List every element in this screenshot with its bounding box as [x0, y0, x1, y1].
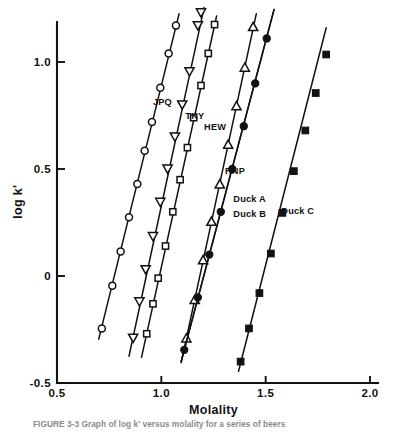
data-point — [184, 145, 190, 151]
chart-canvas: 0.51.01.52.01.00.50-0.5 JPQTKYHEWRNPDuck… — [0, 0, 400, 432]
figure-container: 0.51.01.52.01.00.50-0.5 JPQTKYHEWRNPDuck… — [0, 0, 400, 432]
data-point — [98, 325, 105, 332]
data-point — [224, 140, 233, 148]
data-point — [144, 331, 150, 337]
data-point — [249, 22, 258, 30]
data-point — [177, 177, 183, 183]
data-point — [156, 198, 165, 206]
data-point — [291, 168, 298, 175]
data-point — [246, 325, 253, 332]
data-point — [198, 82, 204, 88]
data-point — [205, 50, 211, 56]
y-tick-label-2: 0 — [44, 270, 51, 282]
data-point — [240, 63, 249, 71]
data-point — [237, 358, 244, 365]
data-point — [215, 180, 224, 188]
data-point — [125, 214, 132, 221]
y-tick-label-0: 1.0 — [34, 56, 51, 68]
x-axis-title: Molality — [189, 403, 238, 417]
series-rnp — [181, 14, 258, 363]
data-point — [148, 118, 155, 125]
series-label-rnp: RNP — [225, 166, 245, 176]
x-tick-label-2: 1.5 — [257, 387, 274, 399]
series-label-jpq: JPQ — [153, 97, 172, 107]
series-label-duck-a: Duck A — [233, 194, 266, 204]
data-point — [211, 21, 217, 27]
data-point — [302, 127, 309, 134]
data-point — [323, 51, 330, 58]
data-point — [129, 334, 138, 342]
data-point — [172, 22, 179, 29]
x-tick-label-1: 1.0 — [153, 387, 170, 399]
data-point — [141, 266, 150, 274]
data-point — [117, 248, 124, 255]
data-point — [109, 282, 116, 289]
y-axis-title: log k' — [11, 185, 25, 219]
data-point — [157, 84, 164, 91]
x-tick-label-3: 2.0 — [361, 387, 378, 399]
series-hew — [142, 16, 218, 357]
series-duck-b — [181, 10, 274, 362]
series-label-tky: TKY — [185, 111, 204, 121]
data-point — [148, 233, 157, 241]
data-point — [150, 301, 156, 307]
data-point — [135, 298, 144, 306]
data-point — [268, 250, 275, 257]
figure-caption-strip: FIGURE 3-3 Graph of log k' versus molali… — [0, 419, 400, 432]
series-label-duck-c: Duck C — [281, 206, 314, 216]
tick-labels-group: 0.51.01.52.01.00.50-0.5 — [30, 56, 379, 399]
data-point — [196, 9, 205, 17]
figure-caption: FIGURE 3-3 Graph of log k' versus molali… — [33, 419, 383, 430]
y-tick-label-3: -0.5 — [30, 377, 52, 389]
series-labels-group: JPQTKYHEWRNPDuck ADuck BDuck C — [153, 97, 314, 219]
data-point — [312, 90, 319, 97]
data-point — [207, 217, 216, 225]
series-trend-line — [181, 10, 274, 362]
data-point — [193, 22, 202, 30]
data-point — [165, 50, 172, 57]
data-point — [162, 243, 168, 249]
data-point — [232, 102, 241, 110]
data-point — [178, 101, 187, 109]
series-label-hew: HEW — [204, 122, 226, 132]
x-tick-label-0: 0.5 — [48, 387, 65, 399]
data-point — [134, 180, 141, 187]
data-point — [256, 290, 263, 297]
series-group — [98, 7, 329, 371]
series-label-duck-b: Duck B — [233, 209, 266, 219]
data-point — [170, 133, 179, 141]
y-tick-label-1: 0.5 — [34, 163, 51, 175]
data-point — [155, 275, 161, 281]
data-point — [185, 68, 194, 76]
data-point — [163, 165, 172, 173]
data-point — [141, 147, 148, 154]
data-point — [170, 209, 176, 215]
